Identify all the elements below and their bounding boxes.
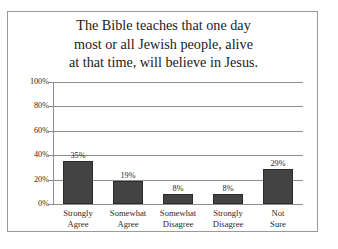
chart-frame: The Bible teaches that one day most or a… bbox=[7, 11, 318, 232]
chart-title-line-2: most or all Jewish people, alive bbox=[20, 35, 307, 54]
bar-slot: 8% bbox=[153, 82, 203, 204]
bar-value-label: 19% bbox=[120, 171, 135, 180]
y-tick-label: 100% bbox=[13, 78, 49, 86]
y-axis-tick-labels: 0%20%40%60%80%100% bbox=[8, 82, 49, 205]
category-label-line: Somewhat bbox=[153, 208, 203, 219]
chart-title-line-1: The Bible teaches that one day bbox=[20, 16, 307, 35]
category-label: SomewhatAgree bbox=[103, 208, 153, 229]
y-tick-label: 80% bbox=[13, 102, 49, 110]
bar[interactable] bbox=[63, 161, 93, 204]
chart-title-line-3: at that time, will believe in Jesus. bbox=[20, 53, 307, 72]
category-label-line: Sure bbox=[253, 219, 303, 230]
bar[interactable] bbox=[113, 181, 143, 204]
bar-slot: 35% bbox=[53, 82, 103, 204]
bar[interactable] bbox=[163, 194, 193, 204]
category-label-line: Strongly bbox=[53, 208, 103, 219]
category-label-line: Somewhat bbox=[103, 208, 153, 219]
y-tick-label: 60% bbox=[13, 127, 49, 135]
y-tick-label: 0% bbox=[13, 200, 49, 208]
bar-slot: 8% bbox=[203, 82, 253, 204]
bar-value-label: 35% bbox=[70, 151, 85, 160]
bar-value-label: 8% bbox=[223, 184, 234, 193]
category-label: SomewhatDisagree bbox=[153, 208, 203, 229]
bar[interactable] bbox=[213, 194, 243, 204]
gridline-0 bbox=[53, 204, 303, 205]
y-tick-label: 40% bbox=[13, 151, 49, 159]
y-tick-label: 20% bbox=[13, 176, 49, 184]
bar-value-label: 29% bbox=[270, 159, 285, 168]
category-label: NotSure bbox=[253, 208, 303, 229]
category-label-line: Disagree bbox=[153, 219, 203, 230]
category-label: StronglyDisagree bbox=[203, 208, 253, 229]
bar[interactable] bbox=[263, 169, 293, 204]
category-label-line: Agree bbox=[53, 219, 103, 230]
chart-title: The Bible teaches that one day most or a… bbox=[20, 16, 307, 72]
plot-area: 35%19%8%8%29% StronglyAgreeSomewhatAgree… bbox=[53, 82, 303, 204]
category-label-line: Disagree bbox=[203, 219, 253, 230]
bar-slot: 19% bbox=[103, 82, 153, 204]
category-label-line: Strongly bbox=[203, 208, 253, 219]
category-label-line: Not bbox=[253, 208, 303, 219]
bar-value-label: 8% bbox=[173, 184, 184, 193]
category-label-line: Agree bbox=[103, 219, 153, 230]
category-label: StronglyAgree bbox=[53, 208, 103, 229]
bar-slot: 29% bbox=[253, 82, 303, 204]
